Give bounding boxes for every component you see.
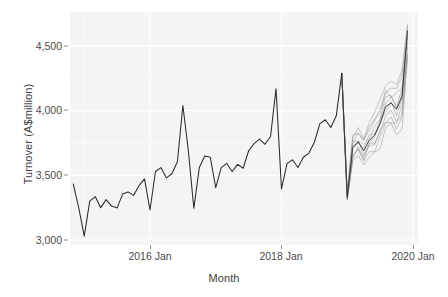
plot-area xyxy=(70,12,418,245)
y-tick-mark-3000 xyxy=(64,240,68,241)
y-tick-label-4000: 4,000 xyxy=(16,104,62,116)
y-tick-label-3000: 3,000 xyxy=(16,234,62,246)
y-tick-label-3500: 3,500 xyxy=(16,169,62,181)
x-tick-label-2016-jan: 2016 Jan xyxy=(128,250,171,262)
x-tick-label-2020-jan: 2020 Jan xyxy=(391,250,434,262)
y-tick-mark-4000 xyxy=(64,110,68,111)
y-tick-label-4500: 4,500 xyxy=(16,40,62,52)
x-axis-title: Month xyxy=(0,272,448,284)
forecast-chart: Turnover (A$million) Month 3,000 3,500 4… xyxy=(0,0,448,297)
gridlines-major xyxy=(70,12,418,245)
gridlines-minor xyxy=(70,12,418,245)
forecast-median-line xyxy=(342,30,408,197)
y-axis-ticks: 3,000 3,500 4,000 4,500 xyxy=(12,0,62,297)
x-tick-mark-2016-jan xyxy=(150,245,151,249)
x-tick-mark-2020-jan xyxy=(413,245,414,249)
x-tick-label-2018-jan: 2018 Jan xyxy=(259,250,302,262)
y-tick-mark-4500 xyxy=(64,46,68,47)
x-tick-mark-2018-jan xyxy=(281,245,282,249)
historical-line xyxy=(73,73,341,236)
y-tick-mark-3500 xyxy=(64,175,68,176)
forecast-fan-paths xyxy=(342,24,408,200)
plot-panel xyxy=(70,12,418,245)
